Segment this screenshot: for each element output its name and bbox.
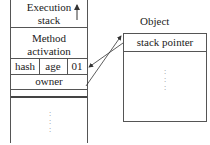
stack-pointer-arrow-icon [89,43,123,67]
arrows-layer [0,0,210,145]
owner-to-object-arrow-icon [86,36,121,86]
